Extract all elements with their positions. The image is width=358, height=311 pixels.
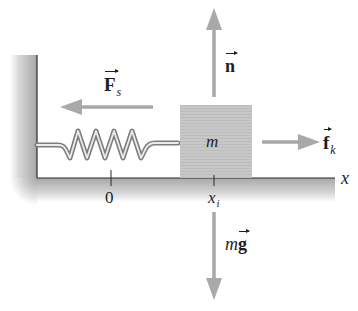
normal-force-symbol: n [225, 57, 235, 75]
normal-force-label: n [225, 57, 235, 75]
gravity-force-symbol: g [238, 235, 247, 253]
wall [10, 55, 37, 178]
friction-force-symbol: f [323, 133, 329, 152]
spring [37, 131, 178, 158]
spring-force-label: Fs [104, 75, 121, 94]
spring-force-arrow [60, 99, 153, 115]
spring-force-subscript: s [117, 85, 122, 99]
spring-force-symbol: F [104, 75, 116, 94]
block-mass-label: m [206, 133, 218, 150]
axis-label: x [341, 169, 349, 187]
wall-floor-corner [10, 178, 37, 205]
tick-label-xi-main: x [208, 188, 216, 207]
friction-force-arrow [262, 134, 320, 150]
gravity-force-arrow [206, 212, 222, 300]
physics-diagram [0, 0, 358, 311]
tick-label-xi: xi [208, 189, 220, 206]
normal-force-arrow [206, 8, 222, 97]
tick-label-origin: 0 [105, 189, 114, 206]
gravity-force-label: mg [225, 235, 247, 253]
tick-label-xi-subscript: i [217, 197, 220, 209]
friction-force-subscript: k [330, 143, 335, 157]
floor [37, 178, 335, 202]
friction-force-label: fk [323, 133, 336, 152]
gravity-mass-prefix: m [225, 234, 238, 254]
